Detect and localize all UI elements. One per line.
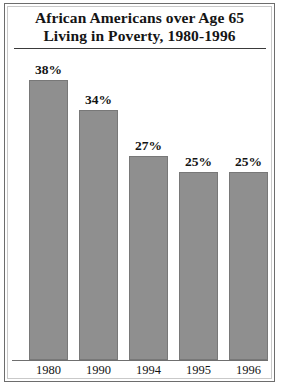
bar-group-1990: 34%: [79, 50, 118, 360]
bar-value-label-1996: 25%: [222, 155, 275, 169]
bar-group-1995: 25%: [179, 50, 218, 360]
bar-value-label-1980: 38%: [22, 63, 75, 77]
x-axis-label-1980: 1980: [22, 362, 75, 378]
x-axis-label-1994: 1994: [122, 362, 175, 378]
x-axis-labels: 1980 1990 1994 1995 1996: [5, 362, 274, 380]
bar-value-label-1990: 34%: [72, 93, 125, 107]
x-axis-line: [12, 360, 268, 361]
plot-area: 38% 34% 27% 25% 25%: [5, 50, 274, 360]
bar-1980[interactable]: [29, 80, 68, 360]
chart-title-line-1: African Americans over Age 65: [5, 9, 274, 27]
title-divider: [14, 48, 266, 49]
x-axis-label-1996: 1996: [222, 362, 275, 378]
bar-group-1996: 25%: [229, 50, 268, 360]
x-axis-label-1995: 1995: [172, 362, 225, 378]
chart-title: African Americans over Age 65 Living in …: [5, 9, 274, 44]
bar-value-label-1995: 25%: [172, 155, 225, 169]
chart-title-line-2: Living in Poverty, 1980-1996: [5, 27, 274, 45]
bar-1994[interactable]: [129, 156, 168, 360]
bar-group-1994: 27%: [129, 50, 168, 360]
bar-1996[interactable]: [229, 172, 268, 360]
bar-group-1980: 38%: [29, 50, 68, 360]
bar-1990[interactable]: [79, 110, 118, 360]
x-axis-label-1990: 1990: [72, 362, 125, 378]
bar-1995[interactable]: [179, 172, 218, 360]
bar-value-label-1994: 27%: [122, 139, 175, 153]
chart-figure: African Americans over Age 65 Living in …: [4, 3, 275, 382]
